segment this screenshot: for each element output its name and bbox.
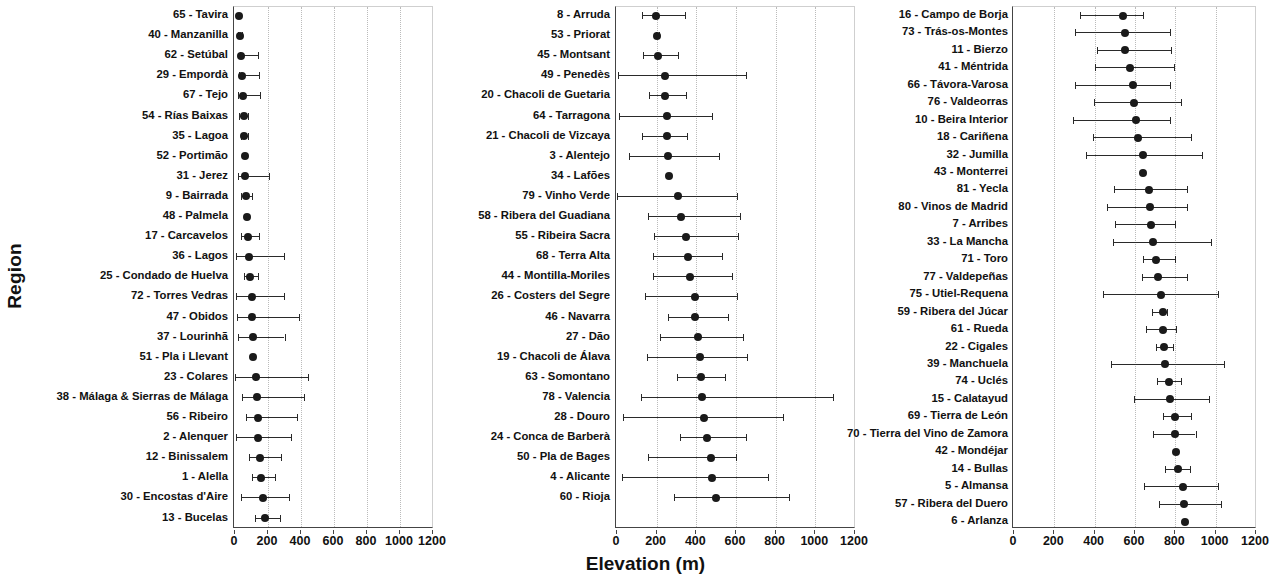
error-bar xyxy=(618,75,746,76)
error-bar-cap-high xyxy=(725,374,726,381)
error-bar-cap-high xyxy=(833,394,834,401)
error-bar-cap-high xyxy=(783,414,784,421)
data-point-marker xyxy=(246,273,254,281)
region-row-label: 34 - Lafões xyxy=(551,167,610,183)
error-bar-cap-low xyxy=(1094,99,1095,106)
error-bar xyxy=(654,236,738,237)
region-row-label: 39 - Manchuela xyxy=(927,355,1008,371)
error-bar-cap-high xyxy=(732,273,733,280)
data-point-marker xyxy=(242,192,250,200)
region-row-label: 79 - Vinho Verde xyxy=(522,187,610,203)
data-point-marker xyxy=(686,273,694,281)
data-point-marker xyxy=(652,12,660,20)
error-bar-cap-high xyxy=(678,52,679,59)
region-row-label: 30 - Encostas d'Aire xyxy=(120,488,228,504)
data-point-marker xyxy=(703,434,711,442)
region-row-label: 26 - Costers del Segre xyxy=(491,287,610,303)
region-row-label: 61 - Rueda xyxy=(951,320,1008,336)
grid-line xyxy=(268,7,270,527)
data-point-marker xyxy=(1159,326,1167,334)
error-bar-cap-high xyxy=(289,494,290,501)
error-bar-cap-low xyxy=(642,12,643,19)
error-bar-cap-low xyxy=(645,293,646,300)
error-bar-cap-low xyxy=(623,414,624,421)
data-point-marker xyxy=(654,52,662,60)
region-row-label: 67 - Tejo xyxy=(183,86,228,102)
error-bar xyxy=(1115,224,1176,225)
grid-line xyxy=(736,7,738,527)
error-bar xyxy=(1095,67,1175,68)
data-point-marker xyxy=(665,172,673,180)
data-point-marker xyxy=(256,454,264,462)
chart-figure: Region Elevation (m) 65 - Tavira40 - Man… xyxy=(0,0,1281,582)
data-point-marker xyxy=(241,152,249,160)
error-bar-cap-high xyxy=(248,133,249,140)
data-point-marker xyxy=(1160,343,1168,351)
region-row-label: 41 - Méntrida xyxy=(938,58,1008,74)
region-row-label: 24 - Conca de Barberà xyxy=(491,428,610,444)
region-row-label: 64 - Tarragona xyxy=(533,107,610,123)
error-bar-cap-high xyxy=(1170,117,1171,124)
data-point-marker xyxy=(694,333,702,341)
x-tick-label: 800 xyxy=(1154,534,1194,548)
error-bar-cap-low xyxy=(1156,344,1157,351)
error-bar-cap-high xyxy=(297,414,298,421)
error-bar-cap-high xyxy=(789,494,790,501)
data-point-marker xyxy=(243,213,251,221)
error-bar-cap-high xyxy=(1218,291,1219,298)
region-row-label: 5 - Almansa xyxy=(945,477,1008,493)
panel-left-plot-area xyxy=(233,6,433,528)
region-row-label: 52 - Portimão xyxy=(156,147,228,163)
error-bar-cap-low xyxy=(249,454,250,461)
error-bar xyxy=(1142,277,1187,278)
x-tick-label: 400 xyxy=(675,534,715,548)
error-bar-cap-high xyxy=(686,92,687,99)
data-point-marker xyxy=(1147,221,1155,229)
error-bar-cap-high xyxy=(291,434,292,441)
panel-middle-plot-area xyxy=(615,6,855,528)
error-bar-cap-high xyxy=(738,233,739,240)
error-bar-cap-low xyxy=(238,334,239,341)
region-row-label: 45 - Montsant xyxy=(537,46,610,62)
error-bar-cap-high xyxy=(1221,501,1222,508)
data-point-marker xyxy=(239,92,247,100)
region-row-label: 18 - Cariñena xyxy=(937,128,1008,144)
error-bar xyxy=(1075,85,1171,86)
x-axis-title: Elevation (m) xyxy=(0,553,1281,575)
error-bar-cap-high xyxy=(1181,99,1182,106)
x-tick-label: 1200 xyxy=(1235,534,1275,548)
error-bar-cap-low xyxy=(242,394,243,401)
error-bar-cap-low xyxy=(677,374,678,381)
region-row-label: 1 - Alella xyxy=(182,468,228,484)
x-tick-label: 1200 xyxy=(834,534,874,548)
error-bar-cap-low xyxy=(653,253,654,260)
data-point-marker xyxy=(1139,169,1147,177)
error-bar-cap-low xyxy=(1152,309,1153,316)
error-bar-cap-low xyxy=(1113,239,1114,246)
data-point-marker xyxy=(707,454,715,462)
error-bar-cap-high xyxy=(1167,309,1168,316)
error-bar-cap-low xyxy=(1093,134,1094,141)
region-row-label: 50 - Pla de Bages xyxy=(517,448,610,464)
data-point-marker xyxy=(238,72,246,80)
error-bar-cap-low xyxy=(668,314,669,321)
error-bar-cap-low xyxy=(1159,501,1160,508)
region-row-label: 28 - Douro xyxy=(554,408,610,424)
error-bar-cap-low xyxy=(1143,256,1144,263)
error-bar-cap-high xyxy=(259,72,260,79)
error-bar-cap-high xyxy=(280,515,281,522)
data-point-marker xyxy=(1119,12,1127,20)
error-bar-cap-low xyxy=(235,374,236,381)
grid-line xyxy=(657,7,659,527)
error-bar-cap-low xyxy=(1075,29,1076,36)
region-row-label: 78 - Valencia xyxy=(542,388,610,404)
error-bar-cap-low xyxy=(1115,221,1116,228)
region-row-label: 49 - Penedès xyxy=(541,66,610,82)
grid-line xyxy=(1054,7,1056,527)
data-point-marker xyxy=(1166,395,1174,403)
data-point-marker xyxy=(677,213,685,221)
error-bar-cap-high xyxy=(736,454,737,461)
data-point-marker xyxy=(1179,483,1187,491)
region-row-label: 71 - Toro xyxy=(961,250,1008,266)
error-bar-cap-low xyxy=(1134,396,1135,403)
